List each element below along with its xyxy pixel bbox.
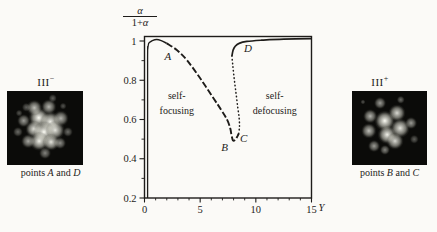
right-pattern-caption: points B and C [339,167,437,178]
pattern-spot [39,147,51,159]
left-superscript-minus: − [50,74,55,83]
pattern-spot [405,117,417,129]
pattern-spot [54,137,66,149]
pattern-spot [374,97,386,109]
pattern-spot [380,145,390,155]
pattern-spot [53,111,68,126]
curve-threshold-rise [148,43,149,198]
y-axis-tick-label: 0.6 [123,114,136,125]
x-axis-tick-label: 15 [306,204,317,215]
pattern-spot [22,103,31,112]
x-axis-tick-label: 10 [251,204,262,215]
y-axis-label-denominator: 1+α [123,16,157,28]
pattern-spot [363,109,377,123]
region-label-self-focusing: self- [168,90,186,101]
pattern-spot [361,123,376,138]
x-axis-tick-label: 5 [198,204,203,215]
left-pattern-title: III− [0,74,92,88]
curve-unstable-branch [232,56,240,134]
curve-upper-left-branch [149,40,167,44]
point-label-D: D [243,42,252,54]
region-label-self-focusing: focusing [160,105,194,116]
y-axis-tick-label: 0.2 [123,193,136,204]
y-axis-tick-label: 1 [131,36,136,47]
y-axis-label-numerator: α [123,5,157,16]
right-superscript-plus: + [384,74,389,83]
pattern-spot [63,127,73,137]
pattern-spot [368,140,380,152]
pattern-spot [16,110,23,117]
y-axis-label-fraction: α 1+α [123,5,157,28]
y-axis-tick-label: 0.8 [123,75,136,86]
right-pattern-image [352,91,427,165]
pattern-spot [60,102,67,109]
left-pattern-image [7,91,83,165]
left-pattern-caption: points A and D [0,167,101,178]
region-label-self-defocusing: self- [266,90,284,101]
right-pattern-title: III+ [334,74,426,88]
pattern-spot [21,135,35,149]
y-axis-tick-label: 0.4 [123,153,137,164]
pattern-spot [397,96,406,105]
x-axis-title: Y [319,202,326,213]
pattern-spot [48,94,57,103]
x-axis-tick-label: 0 [142,204,147,215]
pattern-spot [13,127,23,137]
point-label-C: C [240,132,248,144]
figure-container: 051015Y10.80.60.40.2ABCDself-focusingsel… [0,0,437,232]
point-label-A: A [164,50,172,62]
region-label-self-defocusing: defocusing [253,105,297,116]
point-label-B: B [221,141,228,153]
pattern-spot [361,100,366,105]
pattern-spot [410,135,419,144]
